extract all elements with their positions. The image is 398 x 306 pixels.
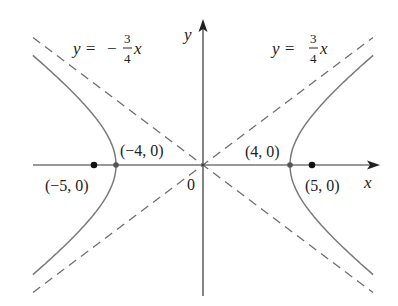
svg-text:y =: y = [71, 39, 96, 58]
fraction-denominator: 4 [124, 51, 131, 66]
point-label-focus-right: (5, 0) [305, 177, 340, 195]
fraction-numerator: 3 [310, 31, 317, 46]
point-label-vertex-right: (4, 0) [245, 143, 280, 161]
vertex-point-right [287, 162, 293, 168]
minus-sign: − [107, 39, 117, 58]
hyperbola-diagram: y x 0 (−5, 0) (−4, 0) (4, 0) (5, 0) y = … [0, 0, 398, 306]
fraction-variable: x [133, 39, 142, 58]
fraction-denominator: 4 [310, 51, 317, 66]
x-axis-label: x [363, 173, 372, 192]
fraction-variable: x [319, 39, 328, 58]
asymptote-label-positive: y = 3 4 x [270, 31, 328, 66]
asymptote-label-negative: y = − 3 4 x [71, 31, 142, 66]
svg-text:y =: y = [270, 39, 295, 58]
origin-label: 0 [187, 176, 195, 193]
point-label-focus-left: (−5, 0) [45, 177, 89, 195]
vertex-point-left [113, 162, 119, 168]
focus-point-right [309, 162, 316, 169]
point-label-vertex-left: (−4, 0) [120, 142, 164, 160]
fraction-numerator: 3 [124, 31, 131, 46]
focus-point-left [91, 162, 98, 169]
y-axis-label: y [182, 25, 192, 44]
